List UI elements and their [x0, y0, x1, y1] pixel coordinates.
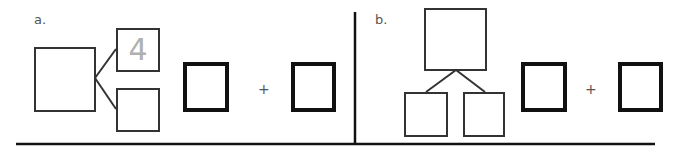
connector-b-right [456, 70, 485, 92]
problem-b-whole-box[interactable] [424, 8, 487, 71]
problem-b-equation-right-box[interactable] [618, 62, 663, 112]
problem-a-equation-right-box[interactable] [291, 62, 336, 112]
connector-a-top [95, 49, 116, 78]
problem-a-part-top-value: 4 [128, 35, 147, 65]
problem-b-part-left-box[interactable] [404, 92, 448, 137]
problem-a-part-top-box: 4 [116, 28, 160, 72]
connector-a-bottom [95, 78, 116, 109]
problem-b-equation-left-box[interactable] [521, 62, 567, 112]
diagram-lines [0, 0, 675, 153]
problem-a-plus-sign: + [258, 82, 270, 96]
problem-b-label: b. [375, 13, 387, 26]
problem-a-whole-box[interactable] [34, 47, 96, 112]
problem-b-part-right-box[interactable] [463, 92, 505, 137]
problem-a-part-bottom-box[interactable] [116, 88, 160, 132]
problem-a-label: a. [34, 13, 46, 26]
problem-a-equation-left-box[interactable] [183, 62, 229, 112]
problem-b-plus-sign: + [585, 82, 597, 96]
connector-b-left [426, 70, 456, 92]
